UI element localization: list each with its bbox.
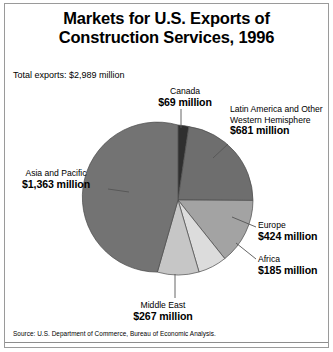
slice-label-latin-america-name-line2: Western Hemisphere [230, 115, 311, 125]
slice-label-asia-pacific-name: Asia and Pacific [25, 168, 86, 178]
pie-slice-asia-pacific [82, 122, 178, 272]
source-divider [5, 342, 328, 343]
slice-label-canada-name: Canada [170, 86, 200, 96]
slice-label-latin-america: Latin America and Other Western Hemisphe… [230, 104, 330, 136]
slice-label-europe: Europe $424 million [258, 220, 330, 241]
slice-label-latin-america-name-line1: Latin America and Other [230, 104, 323, 114]
slice-label-middle-east-value: $267 million [120, 311, 206, 322]
pie-slice-latin-america [178, 127, 253, 201]
slice-label-latin-america-value: $681 million [230, 125, 330, 136]
slice-label-canada-value: $69 million [147, 97, 223, 108]
slice-label-europe-name: Europe [258, 220, 286, 230]
slice-label-europe-value: $424 million [258, 231, 330, 242]
slice-label-asia-pacific: Asia and Pacific $1,363 million [6, 168, 106, 189]
slice-label-africa: Africa $185 million [258, 254, 330, 275]
slice-label-middle-east-name: Middle East [141, 300, 186, 310]
slice-label-africa-value: $185 million [258, 265, 330, 276]
chart-figure: Markets for U.S. Exports of Construction… [0, 0, 333, 352]
source-note: Source: U.S. Department of Commerce, Bur… [13, 330, 216, 338]
slice-label-canada: Canada $69 million [147, 86, 223, 107]
slice-label-africa-name: Africa [258, 254, 280, 264]
slice-label-middle-east: Middle East $267 million [120, 300, 206, 321]
slice-label-asia-pacific-value: $1,363 million [6, 179, 106, 190]
leader-line-africa [236, 243, 256, 259]
